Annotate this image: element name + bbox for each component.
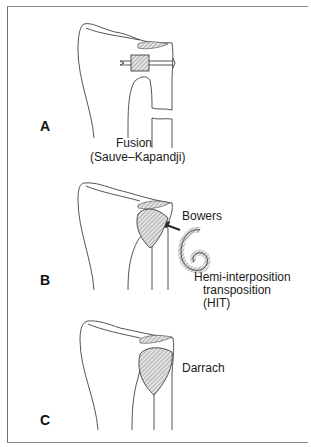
caption-fusion: Fusion — [116, 137, 152, 150]
tfcc-a — [138, 42, 168, 49]
caption-sauve-kapandji: (Sauve–Kapandji) — [90, 151, 185, 164]
fusion-graft — [131, 55, 149, 71]
bowers-resection — [137, 209, 168, 248]
label-hit: (HIT) — [203, 297, 230, 310]
panel-label-a: A — [40, 118, 50, 134]
hit-spiral-graft — [181, 230, 207, 271]
panel-b-bone-drawing — [78, 183, 180, 290]
label-bowers: Bowers — [182, 210, 222, 223]
panel-label-b: B — [40, 272, 50, 288]
label-darrach: Darrach — [182, 362, 225, 375]
tfcc-c — [140, 335, 172, 343]
panel-label-c: C — [40, 412, 50, 428]
tfcc-b — [138, 201, 170, 209]
wrist-procedures-illustration — [0, 0, 311, 447]
darrach-resection — [139, 348, 172, 395]
